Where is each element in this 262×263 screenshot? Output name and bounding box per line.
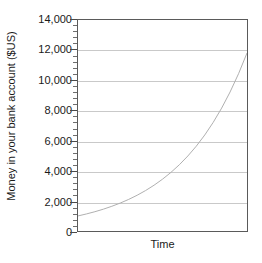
y-axis-tick-label: 14,000 xyxy=(22,13,72,25)
y-axis-tick-label: 0 xyxy=(22,226,72,238)
y-axis-tick-label: 12,000 xyxy=(22,43,72,55)
y-axis-tick-label: 4,000 xyxy=(22,165,72,177)
plot-inner xyxy=(78,20,247,231)
y-axis-tick-label: 10,000 xyxy=(22,74,72,86)
y-axis-tick-label: 2,000 xyxy=(22,196,72,208)
y-axis-tick-labels: 02,0004,0006,0008,00010,00012,00014,000 xyxy=(22,0,72,263)
series-line-compound-growth xyxy=(78,53,247,216)
y-axis-tick-label: 8,000 xyxy=(22,104,72,116)
x-axis-title: Time xyxy=(77,238,248,250)
series-curve-layer xyxy=(78,20,247,231)
chart-container: Money in your bank account ($US) 02,0004… xyxy=(0,0,262,263)
plot-area xyxy=(77,19,248,232)
y-axis-title: Money in your bank account ($US) xyxy=(0,0,22,232)
y-axis-tick-label: 6,000 xyxy=(22,135,72,147)
